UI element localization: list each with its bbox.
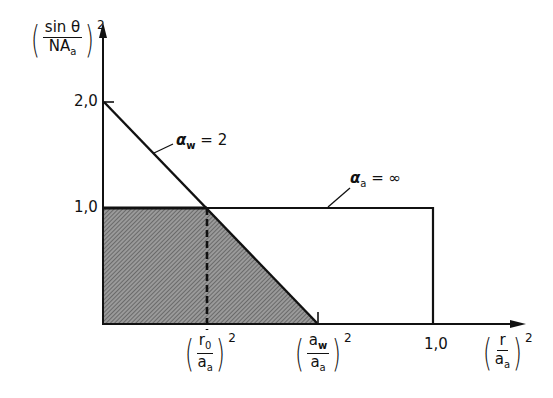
y-tick-1-0: 1,0 — [74, 198, 98, 216]
leader-alpha-a — [328, 188, 350, 207]
leader-alpha-w — [154, 144, 173, 153]
x-axis-arrow — [510, 320, 526, 328]
y-axis-label: ( sin θ NAa ) 2 — [28, 20, 105, 58]
label-alpha-a: αa = ∞ — [350, 169, 401, 189]
y-tick-2-0: 2,0 — [74, 92, 98, 110]
x-tick-1-0: 1,0 — [424, 335, 448, 353]
x-tick-aw-over-aa: ( aw aa ) 2 — [292, 333, 352, 373]
label-alpha-w: αw = 2 — [176, 131, 227, 151]
x-tick-r0-over-aa: ( r0 aa ) 2 — [182, 333, 236, 373]
x-axis-label: ( r aa ) 2 — [480, 333, 533, 371]
shaded-region — [104, 208, 317, 323]
